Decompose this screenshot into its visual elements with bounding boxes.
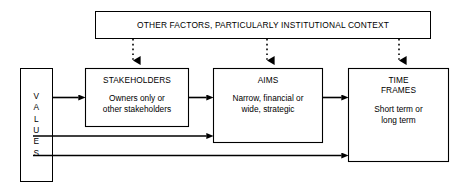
aims-box (214, 69, 323, 143)
diagram-canvas: OTHER FACTORS, PARTICULARLY INSTITUTIONA… (0, 0, 468, 188)
diagram-graphics (0, 0, 468, 188)
stakeholders-box (86, 69, 189, 127)
timeframes-box (349, 69, 449, 162)
banner-box (96, 12, 431, 39)
values-box (21, 69, 53, 182)
